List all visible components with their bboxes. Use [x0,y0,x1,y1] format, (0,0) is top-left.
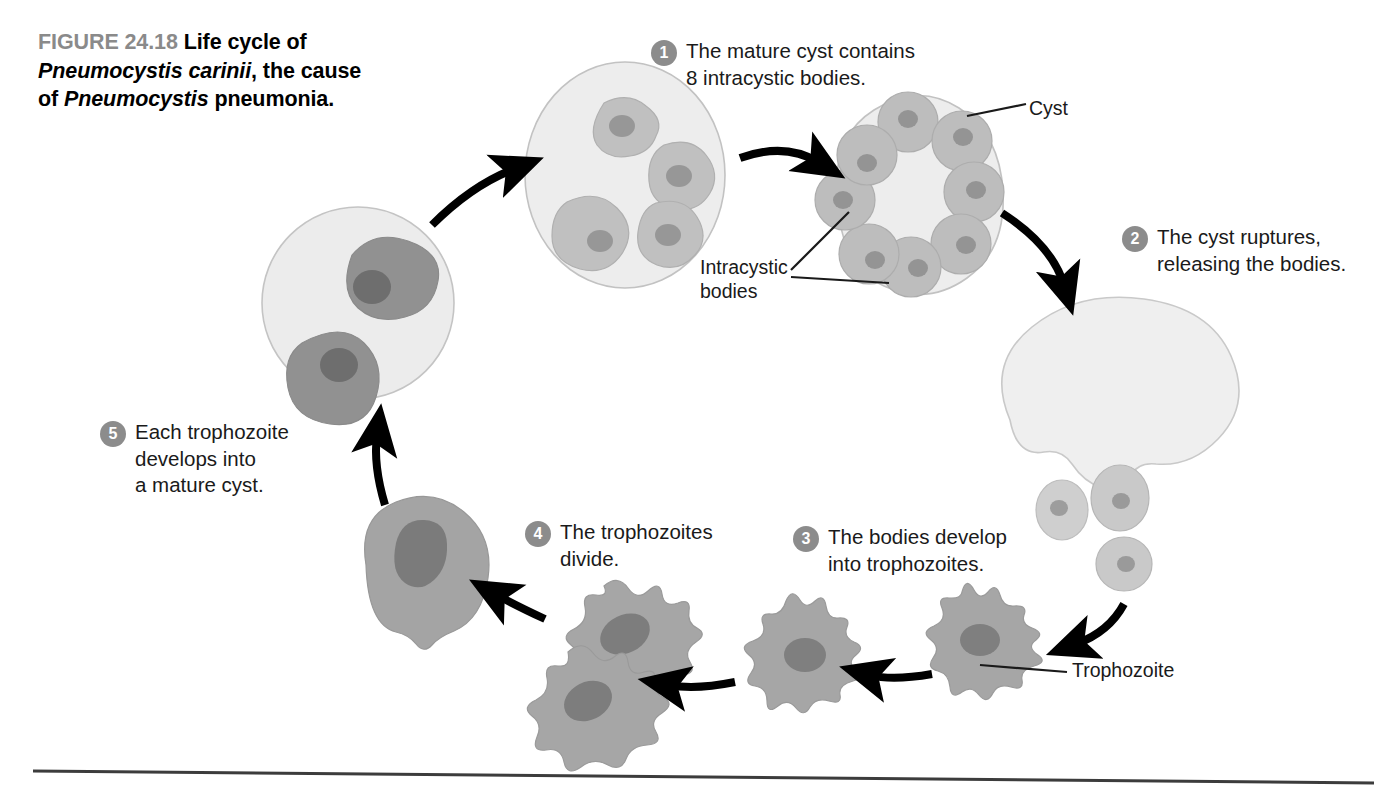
stage-trophozoite [926,583,1042,699]
step-callout-2: 2 The cyst ruptures, releasing the bodie… [1122,224,1346,277]
stage-mature-cyst [815,92,1004,297]
stage-ruptured-cyst [1002,297,1239,591]
figure-caption: FIGURE 24.18 Life cycle of Pneumocystis … [38,28,368,114]
caption-text-3: of [38,87,64,111]
stage-rounded-trophozoite [365,496,489,649]
body-nucleus [655,224,681,246]
body-nucleus [1117,556,1135,572]
step-callout-5: 5 Each trophozoite develops into a matur… [100,419,289,499]
arrow-6-to-7 [497,595,545,619]
arrow-3-to-4 [1076,604,1124,644]
body-nucleus [966,181,986,199]
life-cycle-diagram [0,0,1390,797]
arrow-4-to-5 [870,674,932,678]
step-badge-5: 5 [100,421,126,447]
arrow-2-to-3 [1002,213,1064,285]
step-badge-3: 3 [793,526,819,552]
body-nucleus [320,348,358,382]
stage-early-cyst [262,207,454,425]
arrow-8-to-1 [432,169,514,225]
step-badge-2: 2 [1122,226,1148,252]
step-text-2: The cyst ruptures, releasing the bodies. [1157,224,1346,277]
figure-container: FIGURE 24.18 Life cycle of Pneumocystis … [0,0,1390,797]
label-intracystic-bodies: Intracystic bodies [700,256,788,304]
step-text-5: Each trophozoite develops into a mature … [135,419,289,499]
body-nucleus [908,259,928,277]
ruptured-cyst-wall [1002,297,1239,489]
stage-trophozoite-mid [744,594,861,713]
caption-text-1: Life cycle of [184,30,307,54]
arrow-7-to-8 [376,435,385,505]
body-nucleus [898,110,918,128]
arrow-1-to-2 [740,151,818,162]
figure-number: FIGURE 24.18 [38,30,178,54]
stage-dividing-trophozoites [527,580,702,771]
step-callout-4: 4 The trophozoites divide. [525,519,713,572]
body-nucleus [353,270,391,304]
arrow-5-to-6 [669,682,735,687]
body-nucleus [953,128,973,146]
leader-cyst [967,104,1026,116]
body-nucleus [1050,500,1068,516]
step-text-1: The mature cyst contains 8 intracystic b… [686,38,915,91]
body-nucleus [865,251,885,269]
caption-species-2: Pneumocystis [64,87,209,111]
body-nucleus [833,191,853,209]
body-nucleus [666,165,692,187]
label-cyst: Cyst [1029,97,1068,121]
stage-developing-cyst [525,62,725,288]
step-badge-4: 4 [525,521,551,547]
body-nucleus [857,154,877,172]
step-badge-1: 1 [651,40,677,66]
bottom-rule [33,771,1374,783]
trophozoite-nucleus [784,638,826,672]
step-text-3: The bodies develop into trophozoites. [828,524,1007,577]
step-callout-1: 1 The mature cyst contains 8 intracystic… [651,38,915,91]
body-nucleus [609,115,635,137]
body-nucleus [1112,493,1130,509]
caption-text-4: pneumonia. [209,87,335,111]
caption-text-2: , the cause [251,59,361,83]
body-nucleus [956,236,976,254]
step-callout-3: 3 The bodies develop into trophozoites. [793,524,1007,577]
label-trophozoite: Trophozoite [1072,659,1174,683]
trophozoite-nucleus [960,624,1000,656]
caption-species-1: Pneumocystis carinii [38,59,251,83]
step-text-4: The trophozoites divide. [560,519,713,572]
body-nucleus [587,230,613,252]
